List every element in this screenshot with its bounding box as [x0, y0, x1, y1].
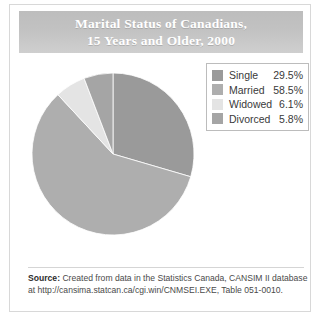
- legend-swatch-icon-divorced: [212, 113, 223, 124]
- legend-swatch-icon-married: [212, 84, 223, 95]
- footnote-divider: [28, 267, 304, 268]
- figure-card: Marital Status of Canadians, 15 Years an…: [9, 4, 311, 312]
- legend-label-single: Single: [229, 69, 273, 81]
- legend-label-widowed: Widowed: [229, 98, 279, 110]
- source-note-line-1: Created from data in the Statistics Cana…: [62, 273, 307, 283]
- legend-value-divorced: 5.8%: [279, 113, 303, 125]
- legend-swatch-icon-widowed: [212, 99, 223, 110]
- source-note-line-2: at http://cansima.statcan.ca/cgi.win/CNM…: [28, 285, 283, 295]
- chart-title-line-1: Marital Status of Canadians,: [75, 15, 247, 32]
- legend-swatch-icon-single: [212, 70, 223, 81]
- legend-item-single: Single 29.5%: [212, 68, 303, 83]
- pie-slice-group: [32, 73, 194, 235]
- plot-area: Single 29.5% Married 58.5% Widowed 6.1% …: [10, 53, 310, 259]
- source-note: Source: Created from data in the Statist…: [28, 273, 308, 296]
- chart-title-banner: Marital Status of Canadians, 15 Years an…: [19, 11, 303, 53]
- source-note-label: Source:: [28, 273, 60, 283]
- legend-value-single: 29.5%: [273, 69, 303, 81]
- legend-label-divorced: Divorced: [229, 113, 279, 125]
- legend-value-married: 58.5%: [273, 84, 303, 96]
- legend-value-widowed: 6.1%: [279, 98, 303, 110]
- legend-item-divorced: Divorced 5.8%: [212, 112, 303, 127]
- chart-legend: Single 29.5% Married 58.5% Widowed 6.1% …: [206, 63, 309, 131]
- legend-item-widowed: Widowed 6.1%: [212, 97, 303, 112]
- legend-item-married: Married 58.5%: [212, 83, 303, 98]
- chart-title-line-2: 15 Years and Older, 2000: [87, 32, 235, 49]
- legend-label-married: Married: [229, 84, 273, 96]
- pie-chart: [31, 56, 197, 252]
